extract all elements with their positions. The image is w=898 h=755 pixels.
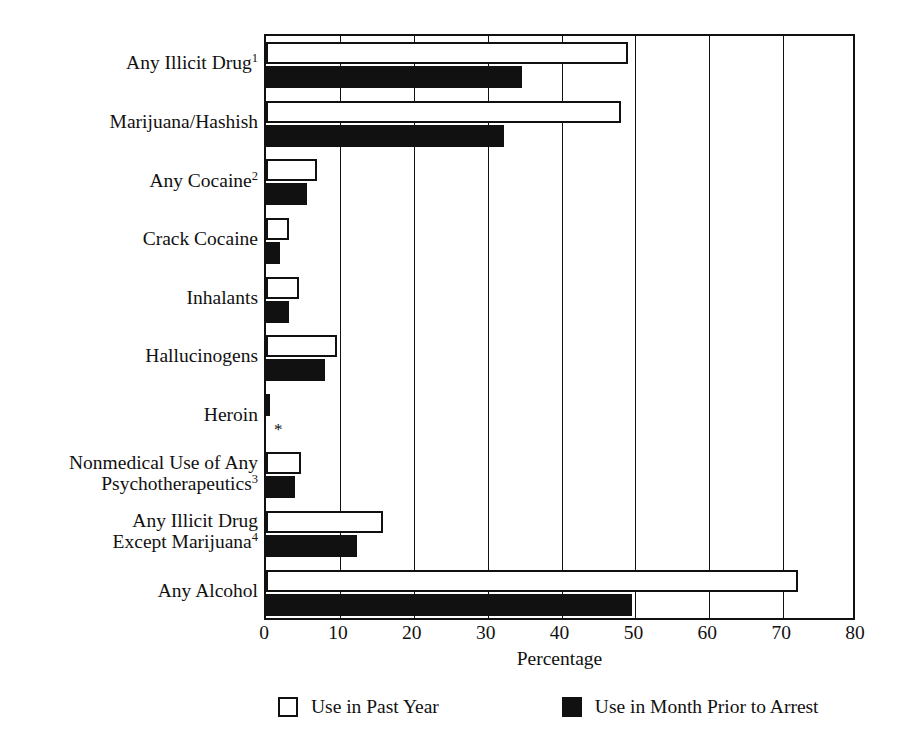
legend-swatch-hollow-icon [278, 697, 298, 717]
bar-past-year [266, 101, 621, 123]
legend-item-use-in-past-year: Use in Past Year [278, 696, 439, 718]
footnote-marker: 2 [252, 168, 258, 182]
bar-month-prior [266, 125, 504, 147]
bar-month-prior [266, 183, 307, 205]
x-tick-label: 20 [402, 622, 422, 644]
y-axis-label: Hallucinogens [0, 345, 258, 366]
x-axis-ticks: 01020304050607080 [264, 622, 855, 648]
x-tick-label: 0 [259, 622, 269, 644]
plot-area: * [264, 34, 855, 620]
bar-row [266, 212, 853, 271]
bar-past-year [266, 218, 289, 240]
footnote-marker: 1 [252, 51, 258, 65]
bar-month-prior [266, 594, 632, 616]
y-axis-label: Crack Cocaine [0, 228, 258, 249]
bar-row [266, 270, 853, 329]
x-tick-label: 60 [698, 622, 718, 644]
footnote-marker: 4 [252, 530, 258, 544]
bar-rows: * [266, 36, 853, 618]
legend-label: Use in Month Prior to Arrest [595, 696, 819, 718]
bar-row [266, 505, 853, 564]
x-tick-label: 70 [771, 622, 791, 644]
bar-row [266, 563, 853, 622]
legend-swatch-filled-icon [562, 697, 582, 717]
chart-legend: Use in Past Year Use in Month Prior to A… [264, 690, 855, 724]
y-axis-label: Any Cocaine2 [0, 170, 258, 191]
y-axis-label: Heroin [0, 404, 258, 425]
bar-row [266, 329, 853, 388]
x-tick-label: 30 [476, 622, 496, 644]
y-axis-label: Marijuana/Hashish [0, 111, 258, 132]
bar-row [266, 95, 853, 154]
bar-past-year [266, 511, 383, 533]
bar-row [266, 36, 853, 95]
bar-past-year [266, 42, 628, 64]
bar-month-prior [266, 301, 289, 323]
footnote-marker: 3 [252, 471, 258, 485]
bar-month-prior [266, 359, 325, 381]
y-axis-label: Inhalants [0, 287, 258, 308]
legend-label: Use in Past Year [311, 696, 439, 718]
suppressed-estimate-marker: * [274, 421, 283, 438]
x-tick-label: 40 [550, 622, 570, 644]
bar-row [266, 446, 853, 505]
x-tick-label: 80 [845, 622, 865, 644]
bar-past-year [266, 277, 299, 299]
legend-item-use-in-month-prior-to-arrest: Use in Month Prior to Arrest [562, 696, 819, 718]
x-tick-label: 10 [328, 622, 348, 644]
bar-past-year [266, 394, 270, 416]
bar-month-prior [266, 476, 295, 498]
bar-past-year [266, 452, 301, 474]
x-axis-title: Percentage [264, 648, 855, 670]
bar-row: * [266, 388, 853, 447]
y-axis-label: Any Illicit DrugExcept Marijuana4 [0, 510, 258, 552]
bar-month-prior [266, 242, 280, 264]
chart-page: Any Illicit Drug1Marijuana/HashishAny Co… [0, 0, 898, 755]
x-tick-label: 50 [624, 622, 644, 644]
bar-past-year [266, 335, 337, 357]
bar-row [266, 153, 853, 212]
y-axis-label: Nonmedical Use of AnyPsychotherapeutics3 [0, 452, 258, 494]
bar-month-prior [266, 66, 522, 88]
y-axis-label: Any Alcohol [0, 580, 258, 601]
y-axis-labels: Any Illicit Drug1Marijuana/HashishAny Co… [0, 34, 258, 620]
bar-past-year [266, 570, 798, 592]
bar-month-prior [266, 535, 357, 557]
bar-past-year [266, 159, 317, 181]
y-axis-label: Any Illicit Drug1 [0, 52, 258, 73]
